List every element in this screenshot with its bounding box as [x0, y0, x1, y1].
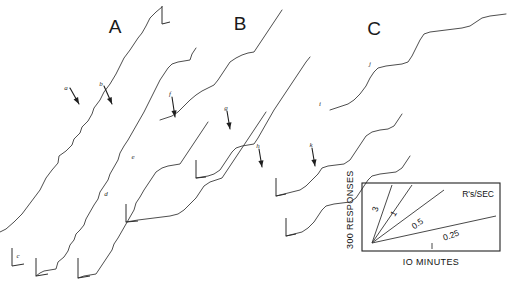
- legend-rate-units-label: R's/SEC: [462, 189, 494, 199]
- pen-reset-mark: [286, 218, 296, 236]
- legend-rate-label-1: 1: [388, 209, 399, 219]
- legend-x-axis-label: IO MINUTES: [403, 257, 460, 267]
- records-group: [0, 7, 506, 278]
- rate-legend: 300 RESPONSES IO MINUTES R's/SEC 310.50.…: [345, 170, 500, 267]
- panel-letters-group: ABC: [109, 13, 381, 39]
- annotation-letter-k: k: [309, 141, 313, 149]
- legend-y-axis-label: 300 RESPONSES: [345, 170, 355, 249]
- annotation-letter-c: c: [16, 252, 20, 260]
- annotation-letter-a: a: [64, 84, 68, 92]
- cumulative-record-figure: abcdefghijk ABC 300 RESPONSES IO MINUTES…: [0, 0, 512, 284]
- annotation-letters-group: abcdefghijk: [16, 60, 371, 260]
- annotation-letter-h: h: [256, 142, 260, 150]
- annotation-arrows-group: [70, 86, 316, 167]
- annotation-letter-b: b: [99, 80, 103, 88]
- cumulative-record-curve: [160, 10, 282, 120]
- annotation-arrow-head: [107, 97, 112, 104]
- annotation-letter-d: d: [104, 190, 108, 198]
- panel-label-c: C: [367, 18, 381, 39]
- panel-label-b: B: [234, 13, 247, 34]
- annotation-arrow-head: [226, 122, 231, 129]
- annotation-letter-j: j: [368, 60, 371, 68]
- annotation-letter-e: e: [131, 153, 134, 161]
- cumulative-record-curve: [330, 14, 506, 110]
- reset-marks-group: [12, 6, 296, 278]
- pen-reset-mark: [276, 178, 286, 196]
- panel-label-a: A: [109, 16, 122, 37]
- annotation-arrow-head: [74, 97, 79, 104]
- annotation-arrow-head: [311, 159, 316, 166]
- cumulative-record-curve: [276, 114, 402, 196]
- annotation-letter-g: g: [224, 104, 228, 112]
- cumulative-record-curve: [0, 7, 162, 232]
- pen-reset-mark: [162, 6, 170, 24]
- pen-reset-mark: [196, 160, 206, 178]
- legend-rate-label-3: 0.25: [441, 228, 460, 243]
- pen-reset-mark: [36, 258, 48, 276]
- annotation-arrow-head: [258, 160, 263, 167]
- legend-rate-label-2: 0.5: [410, 216, 426, 231]
- cumulative-record-curve: [196, 57, 310, 178]
- annotation-letter-i: i: [319, 100, 321, 108]
- legend-rate-label-0: 3: [370, 205, 381, 213]
